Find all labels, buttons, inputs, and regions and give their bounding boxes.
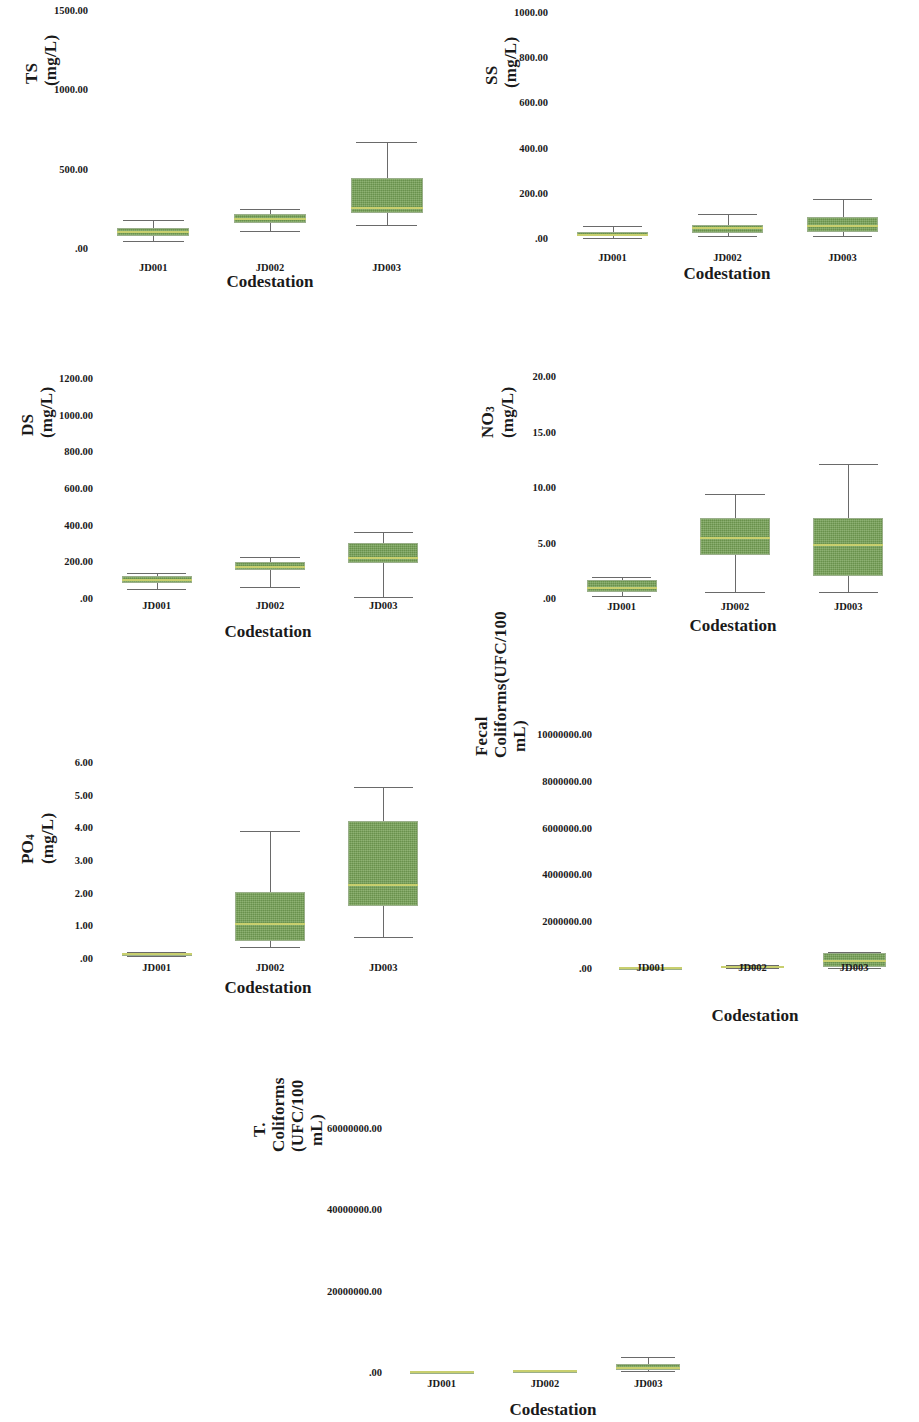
median-line xyxy=(234,218,306,220)
y-tick-label: 4000000.00 xyxy=(542,869,592,880)
y-tick-label: 1.00 xyxy=(75,920,93,931)
x-tick-label-JD001: JD001 xyxy=(139,262,168,273)
box-JD003 xyxy=(807,217,878,232)
box-JD001 xyxy=(122,576,192,583)
median-line xyxy=(351,207,423,209)
box-JD002 xyxy=(692,225,763,233)
x-tick-label-JD002: JD002 xyxy=(256,600,285,611)
whisker-cap-lower xyxy=(518,1372,572,1373)
whisker-cap-lower xyxy=(354,597,413,598)
whisker-lower xyxy=(622,592,623,595)
whisker-cap-upper xyxy=(356,142,417,143)
whisker-upper xyxy=(648,1357,649,1364)
y-tick-label: .00 xyxy=(80,593,93,604)
median-line xyxy=(721,966,784,968)
whisker-cap-upper xyxy=(583,226,643,227)
whisker-upper xyxy=(157,952,158,953)
whisker-upper xyxy=(613,226,614,232)
whisker-cap-lower xyxy=(819,592,878,593)
y-tick-label: 600.00 xyxy=(519,97,548,108)
x-tick-label-JD001: JD001 xyxy=(598,252,627,263)
whisker-cap-lower xyxy=(705,592,764,593)
y-tick-label: 10.00 xyxy=(532,482,556,493)
box-JD003 xyxy=(616,1364,680,1369)
y-axis-label-no3: NO3 (mg/L) xyxy=(478,412,628,438)
x-axis-title-ss: Codestation xyxy=(684,264,771,284)
whisker-cap-upper xyxy=(518,1370,572,1371)
whisker-lower xyxy=(270,570,271,587)
x-tick-label-JD003: JD003 xyxy=(369,600,398,611)
x-axis-title-ts: Codestation xyxy=(227,272,314,292)
box-JD002 xyxy=(235,892,305,941)
whisker-upper xyxy=(153,220,154,228)
x-tick-label-JD002: JD002 xyxy=(738,962,767,973)
whisker-cap-upper xyxy=(240,831,299,832)
median-line xyxy=(577,234,648,236)
whisker-cap-lower xyxy=(354,937,413,938)
whisker-lower xyxy=(157,955,158,956)
whisker-cap-upper xyxy=(813,199,873,200)
y-tick-label: 600.00 xyxy=(64,483,93,494)
y-tick-label: 5.00 xyxy=(75,789,93,800)
whisker-lower xyxy=(648,1370,649,1372)
whisker-lower xyxy=(848,576,849,593)
chart-panel-po4: PO4 (mg/L)6.005.004.003.002.001.00.00JD0… xyxy=(0,0,919,1422)
whisker-lower xyxy=(153,236,154,241)
median-line xyxy=(807,225,878,227)
whisker-upper xyxy=(848,464,849,518)
whisker-lower xyxy=(383,563,384,596)
whisker-cap-upper xyxy=(621,1357,675,1358)
box-JD001 xyxy=(410,1372,474,1375)
median-line xyxy=(616,1367,680,1369)
box-JD001 xyxy=(117,228,189,236)
whisker-cap-lower xyxy=(240,231,301,232)
y-tick-label: .00 xyxy=(80,953,93,964)
y-tick-label: 1000.00 xyxy=(54,84,88,95)
x-tick-label-JD003: JD003 xyxy=(634,1378,663,1389)
whisker-lower xyxy=(157,583,158,589)
median-line xyxy=(117,231,189,233)
box-JD003 xyxy=(823,953,886,966)
y-axis-label-ss: SS (mg/L) xyxy=(482,62,622,88)
y-tick-label: 20000000.00 xyxy=(327,1285,382,1296)
whisker-cap-upper xyxy=(624,967,677,968)
whisker-cap-upper xyxy=(698,214,758,215)
whisker-cap-lower xyxy=(813,236,873,237)
x-tick-label-JD001: JD001 xyxy=(427,1378,456,1389)
whisker-cap-upper xyxy=(415,1371,469,1372)
x-tick-label-JD002: JD002 xyxy=(256,262,285,273)
y-axis-label-fecal_coliforms: Fecal Coliforms(UFC/100mL) xyxy=(472,714,704,758)
x-tick-label-JD003: JD003 xyxy=(834,601,863,612)
x-tick-label-JD003: JD003 xyxy=(828,252,857,263)
whisker-cap-lower xyxy=(127,956,186,957)
whisker-cap-lower xyxy=(127,589,186,590)
whisker-cap-upper xyxy=(819,464,878,465)
whisker-lower xyxy=(270,941,271,947)
median-line xyxy=(235,923,305,925)
x-tick-label-JD002: JD002 xyxy=(531,1378,560,1389)
x-axis-title-ds: Codestation xyxy=(225,622,312,642)
median-line xyxy=(513,1370,577,1372)
box-JD002 xyxy=(700,518,770,555)
chart-panel-ss: SS (mg/L)1000.00800.00600.00400.00200.00… xyxy=(0,0,919,1422)
y-tick-label: .00 xyxy=(579,963,592,974)
median-line xyxy=(122,953,192,955)
y-axis-label-ts: TS (mg/L) xyxy=(22,60,162,86)
box-JD003 xyxy=(348,821,418,906)
y-tick-label: 8000000.00 xyxy=(542,775,592,786)
y-tick-label: .00 xyxy=(535,233,548,244)
box-JD001 xyxy=(122,953,192,956)
whisker-lower xyxy=(735,555,736,593)
chart-panel-ds: DS (mg/L)1200.001000.00800.00600.00400.0… xyxy=(0,0,919,1422)
whisker-upper xyxy=(753,965,754,966)
y-tick-label: .00 xyxy=(75,243,88,254)
median-line xyxy=(700,537,770,539)
x-tick-label-JD002: JD002 xyxy=(256,962,285,973)
y-tick-label: 20.00 xyxy=(532,371,556,382)
whisker-upper xyxy=(270,209,271,214)
box-JD002 xyxy=(234,214,306,224)
whisker-upper xyxy=(622,577,623,580)
x-tick-label-JD002: JD002 xyxy=(713,252,742,263)
x-tick-label-JD002: JD002 xyxy=(721,601,750,612)
chart-panel-no3: NO3 (mg/L)20.0015.0010.005.00.00JD001JD0… xyxy=(0,0,919,1422)
